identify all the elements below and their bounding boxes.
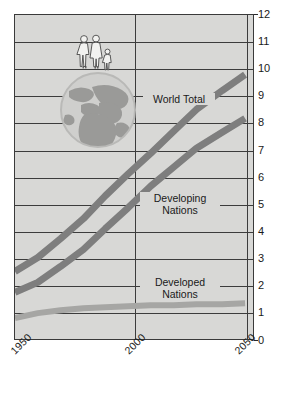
annotation-developing-line1: Developing <box>140 192 220 204</box>
annotation-developed-line1: Developed <box>140 276 220 288</box>
xtick-label-1950: 1950 <box>8 331 34 357</box>
chart-root: World Total Developing Nations Developed… <box>0 0 296 397</box>
ytick-label-2: 2 <box>258 280 280 291</box>
annotation-developing-line2: Nations <box>140 204 220 216</box>
ytick-label-4: 4 <box>258 226 280 237</box>
annotation-developed-line2: Nations <box>140 288 220 300</box>
ytick-label-11: 11 <box>258 36 280 47</box>
ytick-label-12: 12 <box>258 9 280 20</box>
ytick-label-9: 9 <box>258 90 280 101</box>
ytick-label-8: 8 <box>258 117 280 128</box>
annotation-world-total-text: World Total <box>143 93 215 105</box>
plot-area: World Total Developing Nations Developed… <box>14 14 254 340</box>
ytick-label-3: 3 <box>258 253 280 264</box>
ytick-label-5: 5 <box>258 199 280 210</box>
ytick-label-1: 1 <box>258 307 280 318</box>
series-line-developed-nations <box>15 303 245 318</box>
annotation-developed-nations: Developed Nations <box>140 276 220 300</box>
ytick-label-7: 7 <box>258 145 280 156</box>
ytick-label-6: 6 <box>258 172 280 183</box>
annotation-world-total: World Total <box>143 93 215 105</box>
ytick-label-10: 10 <box>258 63 280 74</box>
annotation-developing-nations: Developing Nations <box>140 192 220 216</box>
ytick-label-0: 0 <box>258 335 280 346</box>
